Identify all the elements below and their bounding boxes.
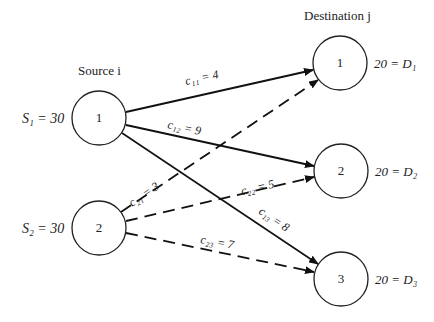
source-node-1: 1 (72, 91, 126, 145)
destination-node-2-id: 2 (338, 163, 345, 178)
source-node-2-id: 2 (96, 220, 103, 235)
source-header: Source i (78, 63, 121, 78)
edge-label-c11: c₁₁ = 4 (184, 67, 220, 88)
source-node-2: 2 (72, 201, 126, 255)
destination-node-1-id: 1 (337, 55, 344, 70)
demand-label-2: 20 = D₂ (375, 164, 418, 179)
edge-1-1 (126, 70, 313, 112)
demand-label-3: 20 = D₃ (375, 272, 417, 287)
destination-node-2: 2 (314, 144, 368, 198)
transportation-network-diagram: Source i Destination j c₁₁ = 4 c₁₂ = 9 c… (0, 0, 434, 322)
destination-node-3: 3 (314, 252, 368, 306)
edge-label-c22: c₂₂ = 5 (240, 177, 276, 198)
destination-node-1: 1 (313, 36, 367, 90)
edge-label-c21: c₂₁ = 3 (126, 179, 162, 209)
supply-label-1: S₁ = 30 (22, 111, 64, 126)
destination-header: Destination j (304, 8, 371, 23)
destination-node-3-id: 3 (338, 271, 345, 286)
demand-label-1: 20 = D₁ (374, 56, 416, 71)
supply-label-2: S₂ = 30 (22, 221, 64, 236)
source-node-1-id: 1 (96, 110, 103, 125)
edge-label-c13: c₁₃ = 8 (256, 204, 292, 234)
